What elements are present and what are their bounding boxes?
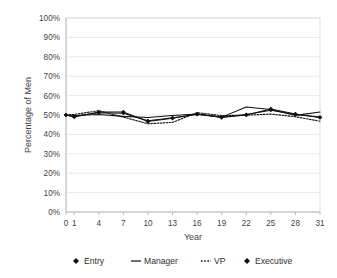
y-tick-label: 0%: [48, 208, 60, 217]
x-tick-label: 19: [217, 219, 227, 228]
x-tick-label: 22: [242, 219, 252, 228]
y-tick-label: 60%: [44, 92, 60, 101]
y-axis-title: Percentage of Men: [23, 77, 33, 153]
y-tick-label: 20%: [44, 169, 60, 178]
x-axis-tick-labels: 01471013161922252831: [64, 212, 325, 228]
legend-item-label[interactable]: Entry: [84, 256, 105, 266]
x-tick-label: 28: [291, 219, 301, 228]
y-tick-label: 80%: [44, 53, 60, 62]
x-tick-label: 31: [315, 219, 325, 228]
legend-diamond-icon: [244, 258, 250, 264]
y-tick-label: 40%: [44, 130, 60, 139]
x-tick-label: 1: [72, 219, 77, 228]
x-tick-label: 25: [266, 219, 276, 228]
x-axis-title: Year: [184, 232, 202, 242]
x-tick-label: 4: [96, 219, 101, 228]
y-axis-tick-labels: 0%10%20%30%40%50%60%70%80%90%100%: [39, 14, 60, 217]
x-tick-label: 0: [64, 219, 69, 228]
line-chart: 0%10%20%30%40%50%60%70%80%90%100%0147101…: [0, 0, 337, 278]
y-tick-label: 90%: [44, 33, 60, 42]
chart-container: 0%10%20%30%40%50%60%70%80%90%100%0147101…: [0, 0, 337, 278]
legend-item-label[interactable]: Manager: [144, 256, 178, 266]
y-tick-label: 30%: [44, 150, 60, 159]
x-tick-label: 7: [121, 219, 126, 228]
legend-diamond-icon: [73, 258, 79, 264]
y-tick-label: 50%: [44, 111, 60, 120]
x-tick-label: 13: [168, 219, 178, 228]
x-tick-label: 10: [143, 219, 153, 228]
x-tick-label: 16: [193, 219, 203, 228]
y-tick-label: 100%: [39, 14, 60, 23]
legend-item-label[interactable]: VP: [214, 256, 226, 266]
chart-legend: EntryManagerVPExecutive: [73, 256, 292, 266]
legend-item-label[interactable]: Executive: [255, 256, 292, 266]
y-tick-label: 10%: [44, 189, 60, 198]
y-tick-label: 70%: [44, 72, 60, 81]
